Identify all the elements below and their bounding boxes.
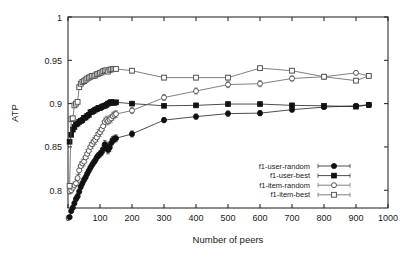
data-point-filled-circle [67,214,72,219]
data-point-filled-circle [129,131,134,136]
x-tick-label: 900 [348,213,363,223]
atp-vs-peers-line-chart: 01002003004005006007008009001000 0.80.85… [0,0,400,253]
x-tick-label: 200 [124,213,139,223]
chart-container: 01002003004005006007008009001000 0.80.85… [0,0,400,253]
data-point-open-square [67,184,72,189]
data-point-open-square [114,67,119,72]
data-point-open-circle [194,89,199,94]
x-tick-label: 700 [284,213,299,223]
data-point-filled-square [226,102,231,107]
data-point-filled-circle [257,111,262,116]
data-point-open-square [290,68,295,73]
data-point-open-circle [290,76,295,81]
data-point-open-square [226,75,231,80]
data-point-open-circle [114,112,119,117]
y-tick-label: 1 [57,13,62,23]
data-point-open-circle [74,181,79,186]
y-tick-label: 0.85 [44,142,62,152]
data-point-filled-circle [225,111,230,116]
x-tick-label: 1000 [378,213,398,223]
data-point-open-square [354,78,359,83]
data-point-open-square [130,68,135,73]
data-point-filled-square [322,103,327,108]
data-point-open-circle [162,95,167,100]
data-point-open-square [70,116,75,121]
data-point-filled-square [332,173,337,178]
data-point-open-circle [354,70,359,75]
data-point-open-circle [130,108,135,113]
data-point-filled-circle [113,136,118,141]
legend-label: f1-user-random [259,162,310,171]
legend-label: f1-user-best [270,171,311,180]
data-point-open-square [258,66,263,71]
x-axis-title: Number of peers [193,234,264,245]
x-tick-label: 400 [188,213,203,223]
data-point-open-circle [258,81,263,86]
data-point-open-circle [332,183,337,188]
data-point-open-square [194,75,199,80]
data-point-filled-square [114,100,119,105]
y-tick-label: 0.95 [44,56,62,66]
data-point-open-square [332,192,337,197]
data-point-filled-circle [161,117,166,122]
legend-label: f1-item-best [270,190,311,199]
data-point-filled-square [162,103,167,108]
y-tick-label: 0.9 [49,99,62,109]
data-point-open-square [162,75,167,80]
legend-label: f1-item-random [259,181,310,190]
data-point-filled-square [130,101,135,106]
x-tick-label: 300 [156,213,171,223]
data-point-open-circle [226,82,231,87]
y-axis-title: ATP [9,104,20,122]
data-point-filled-square [194,103,199,108]
data-point-filled-square [290,103,295,108]
x-tick-label: 500 [220,213,235,223]
x-tick-label: 800 [316,213,331,223]
data-point-filled-square [258,102,263,107]
x-tick-label: 100 [92,213,107,223]
x-tick-label: 600 [252,213,267,223]
data-point-filled-square [354,104,359,109]
data-point-filled-circle [331,163,336,168]
data-point-filled-square [366,103,371,108]
data-point-filled-square [67,139,72,144]
data-point-open-square [75,99,80,104]
data-point-open-circle [75,176,80,181]
data-point-filled-circle [193,114,198,119]
data-point-open-square [322,74,327,79]
data-point-open-square [366,74,371,79]
y-tick-label: 0.8 [49,186,62,196]
